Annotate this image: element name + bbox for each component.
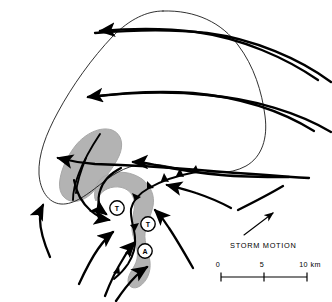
vortex-marker-1: T xyxy=(110,201,124,215)
scale-bar-label-5: 5 xyxy=(260,260,264,269)
schematic-canvas: T T A STORM MOTION 0 5 10 km xyxy=(0,0,332,302)
vortex-marker-2: T xyxy=(141,217,155,231)
vortex-marker-2-label: T xyxy=(146,221,151,228)
vortex-marker-1-label: T xyxy=(115,205,120,212)
vortex-marker-3: A xyxy=(138,244,152,258)
scale-bar-label-10: 10 km xyxy=(299,260,321,269)
scale-bar-label-0: 0 xyxy=(216,260,220,269)
vortex-marker-3-label: A xyxy=(142,248,147,255)
supercell-schematic-figure: T T A STORM MOTION 0 5 10 km xyxy=(0,0,332,302)
storm-motion-label: STORM MOTION xyxy=(230,241,297,250)
